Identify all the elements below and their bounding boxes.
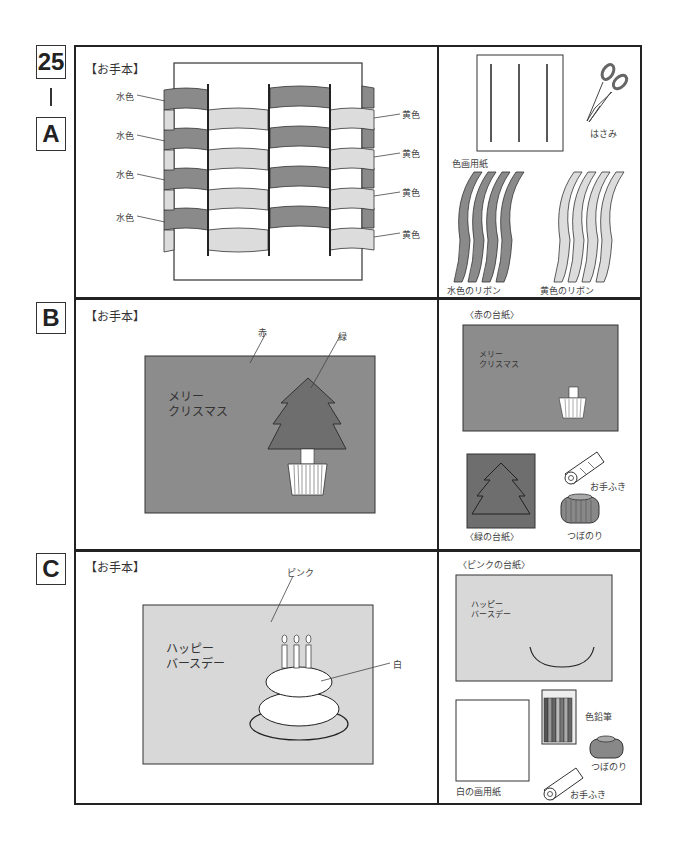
label-glue-c: つぼのり (591, 760, 627, 773)
pink-base-text: ハッピー バースデー (471, 600, 511, 620)
label-towel-c: お手ふき (570, 788, 606, 801)
label-white-paper: 白の画用紙 (456, 785, 501, 798)
colored-pencils-icon (542, 690, 576, 744)
glue-pot-icon (590, 736, 623, 758)
label-colored-pencils: 色鉛筆 (585, 710, 612, 723)
section-c-materials (0, 0, 674, 863)
